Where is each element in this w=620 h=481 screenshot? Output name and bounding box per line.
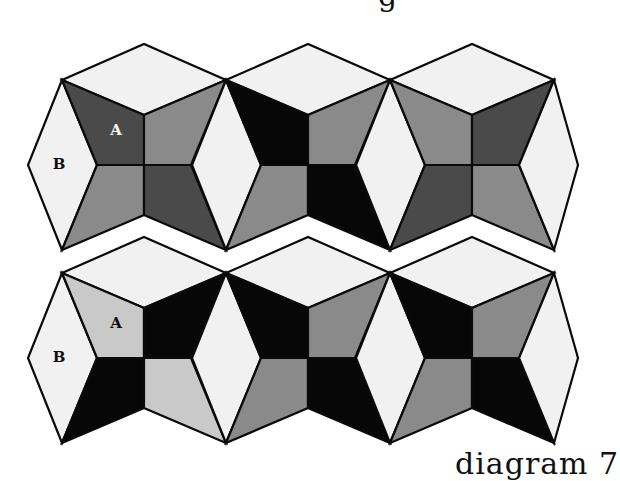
top-row: AB <box>28 44 578 250</box>
pattern-block <box>192 44 390 250</box>
pattern-block <box>356 237 554 443</box>
pattern-block: AB <box>28 237 226 443</box>
cropped-heading-fragment: g <box>378 0 397 13</box>
pattern-block <box>192 237 390 443</box>
piece-label-a: A <box>109 121 122 139</box>
bottom-row: AB <box>28 237 578 443</box>
piece-label-b: B <box>53 348 66 366</box>
piece-label-a: A <box>109 314 122 332</box>
pattern-block: AB <box>28 44 226 250</box>
pattern-block <box>356 44 554 250</box>
piece-label-b: B <box>53 155 66 173</box>
diagram-caption: diagram 7 <box>455 446 619 481</box>
